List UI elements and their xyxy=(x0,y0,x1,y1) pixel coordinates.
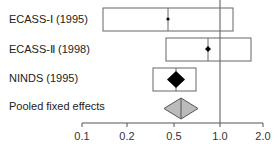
x-tick-label: 0.5 xyxy=(166,130,181,143)
x-tick-label: 0.1 xyxy=(74,130,89,143)
x-tick-label: 2.0 xyxy=(255,130,270,143)
point-ecass1 xyxy=(166,17,169,20)
study-label: ECASS-Ⅰ (1995) xyxy=(9,13,88,26)
diamond-ninds xyxy=(167,71,185,88)
study-label: ECASS-Ⅱ (1998) xyxy=(9,43,90,56)
study-label: NINDS (1995) xyxy=(9,72,78,85)
x-tick-label: 1.0 xyxy=(212,130,227,143)
point-ecass2 xyxy=(205,46,211,52)
pooled-label: Pooled fixed effects xyxy=(9,100,105,113)
x-tick-label: 0.2 xyxy=(119,130,134,143)
